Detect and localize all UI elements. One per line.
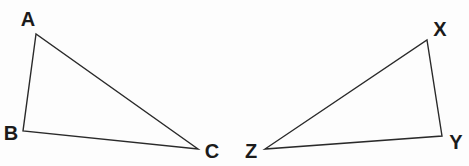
geometry-diagram-canvas: A B C X Y Z (0, 0, 469, 166)
triangles-figure (0, 0, 469, 166)
triangle-xyz-polygon (265, 40, 442, 149)
triangle-abc-polygon (23, 34, 198, 149)
vertex-label-c: C (205, 141, 219, 161)
vertex-label-a: A (21, 9, 35, 29)
vertex-label-y: Y (449, 132, 462, 152)
vertex-label-z: Z (245, 141, 257, 161)
vertex-label-b: B (4, 123, 18, 143)
vertex-label-x: X (433, 19, 446, 39)
triangle-abc-outline (23, 34, 198, 149)
triangle-xyz-outline (265, 40, 442, 149)
